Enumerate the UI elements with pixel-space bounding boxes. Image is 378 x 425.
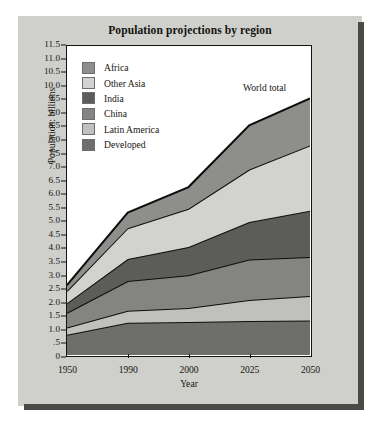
y-tick-label: 5.0 [49, 217, 60, 226]
x-tick-mark [189, 354, 190, 358]
y-tick-label: 3.0 [49, 271, 60, 280]
panel-shadow-bottom [24, 404, 364, 410]
x-tick-label: 2050 [301, 364, 320, 375]
legend-label: Africa [104, 62, 129, 73]
legend-label: Other Asia [104, 78, 145, 89]
y-axis: 11.511.010.510.09.59.08.58.07.57.06.56.0… [18, 38, 66, 364]
legend-label: China [104, 108, 127, 119]
x-tick-label: 2000 [179, 364, 198, 375]
legend-label: India [104, 93, 124, 104]
legend-swatch [82, 108, 95, 120]
x-tick-label: 1990 [119, 364, 138, 375]
y-axis-label: Population: billions [46, 51, 57, 201]
chart-page: Population projections by region 11.511.… [0, 0, 378, 425]
y-tick-label: 1.5 [49, 312, 60, 321]
panel-shadow-right [358, 22, 364, 410]
y-tick-label: 5.5 [49, 203, 60, 212]
legend-swatch [82, 92, 95, 104]
world-total-annotation: World total [243, 82, 286, 93]
legend-item-latin-america: Latin America [82, 122, 159, 137]
legend-label: Developed [104, 139, 146, 150]
legend-swatch [82, 139, 95, 151]
legend-swatch [82, 123, 95, 135]
x-tick-label: 2025 [240, 364, 259, 375]
y-tick-label: 11.5 [44, 40, 60, 49]
y-tick-label: 1.0 [49, 325, 60, 334]
legend-item-china: China [82, 106, 159, 121]
y-tick-label: .5 [53, 339, 60, 348]
legend-label: Latin America [104, 124, 159, 135]
y-tick-label: 4.5 [49, 230, 60, 239]
legend: AfricaOther AsiaIndiaChinaLatin AmericaD… [82, 60, 159, 152]
legend-swatch [82, 62, 95, 74]
x-axis: 19501990200020252050 [66, 358, 312, 380]
y-tick-label: 3.5 [49, 257, 60, 266]
legend-item-africa: Africa [82, 60, 159, 75]
y-tick-label: 2.5 [49, 285, 60, 294]
x-axis-label: Year [66, 378, 312, 389]
x-tick-mark [250, 354, 251, 358]
legend-swatch [82, 77, 95, 89]
x-tick-mark [128, 354, 129, 358]
legend-item-india: India [82, 91, 159, 106]
y-tick-label: 2.0 [49, 298, 60, 307]
legend-item-other-asia: Other Asia [82, 75, 159, 90]
chart-title: Population projections by region [18, 24, 362, 36]
y-tick-label: 4.0 [49, 244, 60, 253]
legend-item-developed: Developed [82, 137, 159, 152]
y-tick-label: 0 [55, 352, 60, 361]
x-tick-label: 1950 [58, 364, 77, 375]
